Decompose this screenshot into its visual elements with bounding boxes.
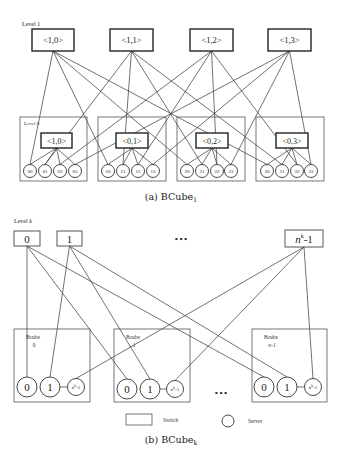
cube-index: n-1 — [268, 342, 276, 348]
figure-a-bcube1: <1,0><1,1><1,2><1,3><1,0>00010203<0,1>10… — [20, 29, 324, 181]
levelk-label: Level k — [14, 218, 32, 224]
legend-switch-icon — [126, 414, 152, 425]
cube-title: Bcube — [264, 334, 279, 340]
legend-server-label: Server — [248, 418, 263, 424]
server-label: nk-1 — [171, 386, 180, 392]
server-label: 0 — [124, 383, 130, 395]
cube-index: 0 — [33, 342, 36, 348]
top-ellipsis: ••• — [174, 235, 188, 244]
level1-switch: <1,3> — [268, 29, 311, 51]
switch-label: 1 — [67, 233, 73, 245]
server-label: 1 — [284, 381, 290, 393]
switch-label: <1,2> — [201, 35, 221, 45]
switch-label: 0 — [24, 233, 30, 245]
link-line — [187, 148, 212, 165]
server-label: 32 — [295, 169, 301, 174]
cube-ellipsis: ••• — [214, 389, 228, 398]
bcube-cell: Bcube101nk-1 — [114, 329, 190, 402]
link-line — [30, 148, 57, 165]
server-label: nk-1 — [309, 384, 318, 390]
server-label: 31 — [280, 169, 286, 174]
level1-switch: <1,0> — [32, 29, 74, 51]
link-line — [75, 51, 290, 165]
level0-label: Level 0 — [24, 121, 40, 126]
server-label: 13 — [151, 169, 157, 174]
levelk-switch: 1 — [57, 231, 82, 246]
link-line — [70, 246, 288, 377]
link-line — [27, 246, 127, 379]
switch-label: <0,3> — [282, 137, 302, 146]
legend: Switch Server — [126, 414, 263, 427]
link-line — [53, 51, 267, 165]
server-label: nk-1 — [72, 384, 81, 390]
level1-switch: <1,1> — [110, 29, 153, 51]
switch-label: <1,0> — [43, 35, 63, 45]
switch-label: nk-1 — [295, 233, 313, 245]
server-label: 1 — [147, 383, 153, 395]
cube-title: Bcube — [26, 334, 41, 340]
server-label: 0 — [261, 381, 267, 393]
server-label: 11 — [121, 169, 126, 174]
server-label: 21 — [200, 169, 206, 174]
switch-label: <0,1> — [122, 137, 142, 146]
levelk-switch: 0 — [14, 231, 40, 246]
caption-b: (b) BCubek — [145, 434, 198, 447]
cube-title: Bcube — [126, 334, 141, 340]
link-line — [27, 246, 264, 377]
level1-label: Level 1 — [22, 21, 40, 27]
server-label: 03 — [73, 169, 79, 174]
bcube-cell: Bcuben-101nk-1 — [252, 329, 327, 402]
link-line — [304, 247, 313, 379]
link-line — [175, 247, 304, 381]
bcube0-cell: <1,0>00010203 — [20, 117, 87, 181]
bcube-diagram: <1,0><1,1><1,2><1,3><1,0>00010203<0,1>10… — [0, 0, 342, 450]
level1-switch: <1,2> — [190, 29, 233, 51]
levelk-switch: nk-1 — [285, 230, 323, 247]
server-label: 01 — [43, 169, 49, 174]
server-label: 12 — [136, 169, 142, 174]
figure-b-bcubek: 01nk-1Bcube001nk-1Bcube101nk-1Bcuben-101… — [14, 230, 327, 402]
legend-server-icon — [222, 415, 234, 427]
server-label: 23 — [229, 169, 235, 174]
server-label: 1 — [47, 381, 53, 393]
link-line — [50, 246, 70, 377]
server-label: 33 — [309, 169, 315, 174]
link-line — [108, 148, 132, 165]
switch-label: <0,2> — [202, 137, 222, 146]
legend-switch-label: Switch — [163, 417, 179, 423]
link-line — [45, 148, 57, 165]
server-label: 02 — [58, 169, 64, 174]
cube-index: 1 — [133, 342, 136, 348]
switch-label: <1,1> — [121, 35, 141, 45]
server-label: 22 — [215, 169, 221, 174]
switch-label: <1,3> — [279, 35, 299, 45]
server-label: 0 — [24, 381, 30, 393]
caption-a: (a) BCube1 — [145, 191, 198, 204]
server-label: 10 — [106, 169, 112, 174]
switch-label: <1,0> — [47, 137, 67, 146]
server-label: 30 — [265, 169, 271, 174]
server-label: 00 — [28, 169, 34, 174]
link-line — [202, 148, 212, 165]
server-label: 20 — [185, 169, 191, 174]
connection-lines — [27, 51, 313, 381]
